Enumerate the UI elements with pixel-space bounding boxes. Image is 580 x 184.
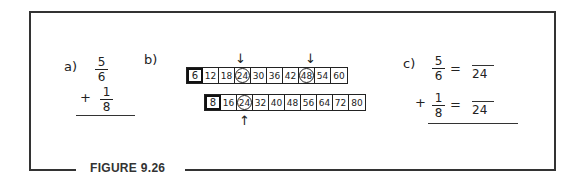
numerator: 1 <box>435 92 443 104</box>
numerator: 1 <box>103 86 111 98</box>
part-c-plus-sign: + <box>415 96 426 109</box>
multiple-cell-circled: 24 <box>235 68 251 83</box>
part-c-blank-numerator-1 <box>472 65 494 66</box>
part-b-label: b) <box>144 53 157 66</box>
multiple-cell: 30 <box>251 68 267 83</box>
multiple-cell: 12 <box>203 68 219 83</box>
part-a-fraction-2: 1 8 <box>100 86 113 113</box>
frame-right-border <box>554 11 556 170</box>
multiple-cell: 60 <box>331 68 347 83</box>
multiple-cell: 18 <box>219 68 235 83</box>
frame-bottom-right-border <box>185 169 556 171</box>
arrow-down-icon: ↓ <box>305 52 316 65</box>
arrow-down-icon: ↓ <box>235 52 246 65</box>
multiple-cell: 36 <box>267 68 283 83</box>
part-c-fraction-2: 1 8 <box>432 92 445 119</box>
multiple-cell: 80 <box>349 95 365 110</box>
denominator: 6 <box>98 71 106 83</box>
part-c-blank-numerator-2 <box>472 101 494 102</box>
part-c-sum-line <box>428 123 518 124</box>
frame-top-border <box>29 11 556 13</box>
part-c-result-denominator-2: 24 <box>472 104 487 116</box>
multiple-cell: 54 <box>315 68 331 83</box>
multiple-cell: 32 <box>253 95 269 110</box>
numerator: 5 <box>435 55 443 67</box>
multiple-cell: 40 <box>269 95 285 110</box>
part-c-equals-2: = <box>450 98 461 111</box>
denominator: 8 <box>103 101 111 113</box>
multiple-cell: 16 <box>221 95 237 110</box>
arrow-up-icon: ↑ <box>239 114 250 127</box>
part-c-label: c) <box>403 57 415 70</box>
denominator: 6 <box>435 70 443 82</box>
frame-bottom-left-border <box>29 169 76 171</box>
multiple-cell-circled: 48 <box>299 68 315 83</box>
part-a-plus-sign: + <box>80 91 91 104</box>
multiples-of-6-row: 6 12 18 24 30 36 42 48 54 60 <box>186 67 348 84</box>
multiple-cell: 6 <box>187 68 203 83</box>
multiple-cell: 72 <box>333 95 349 110</box>
multiples-of-8-row: 8 16 24 32 40 48 56 64 72 80 <box>204 94 366 111</box>
numerator: 5 <box>98 56 106 68</box>
part-a-sum-line <box>76 115 135 116</box>
part-c-fraction-1: 5 6 <box>432 55 445 82</box>
multiple-cell: 42 <box>283 68 299 83</box>
part-a-fraction-1: 5 6 <box>95 56 108 83</box>
multiple-cell: 56 <box>301 95 317 110</box>
multiple-cell: 64 <box>317 95 333 110</box>
multiple-cell: 8 <box>205 95 221 110</box>
part-c-result-denominator-1: 24 <box>472 68 487 80</box>
part-a-label: a) <box>64 60 77 73</box>
figure-caption: FIGURE 9.26 <box>90 161 165 175</box>
frame-left-border <box>29 11 31 170</box>
part-c-equals-1: = <box>450 62 461 75</box>
denominator: 8 <box>435 107 443 119</box>
multiple-cell-circled: 24 <box>237 95 253 110</box>
multiple-cell: 48 <box>285 95 301 110</box>
